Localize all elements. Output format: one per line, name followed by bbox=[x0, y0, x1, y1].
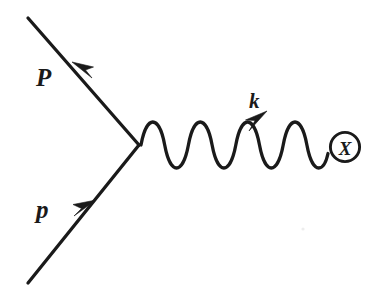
feynman-diagram: Feynman diagram: electron-proton scatter… bbox=[0, 0, 371, 299]
diagram-background bbox=[0, 0, 371, 299]
incoming-momentum-label: p bbox=[34, 196, 49, 223]
photon-momentum-label: k bbox=[249, 89, 260, 113]
outgoing-momentum-label: P bbox=[35, 64, 52, 91]
scan-speck-artifact bbox=[301, 227, 304, 230]
blob-marker-label: X bbox=[338, 138, 353, 159]
diagram-canvas: Feynman diagram: electron-proton scatter… bbox=[0, 0, 371, 299]
